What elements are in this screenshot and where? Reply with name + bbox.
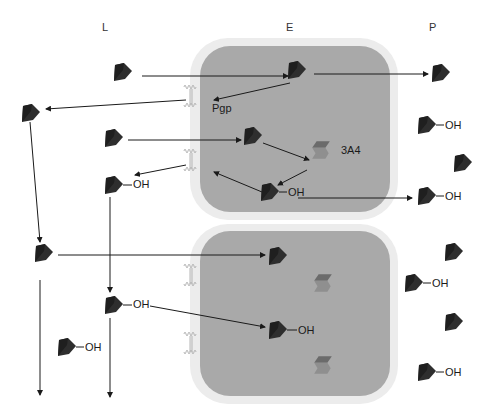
hydroxylated-drug-icon [105,176,123,194]
oh-bonds [76,125,444,372]
drug-molecule-icon [114,63,132,81]
hydroxylated-drug-icon [58,338,76,356]
diagram-canvas [0,0,495,420]
pgp-label: Pgp [212,102,232,114]
oh-label: OH [133,298,150,310]
hydroxylated-drug-icon [405,274,423,292]
hydroxylated-drug-icon [261,183,279,201]
cyp3a4-enzyme-icon [312,141,330,159]
membrane-protein-icon [184,332,196,354]
cyp3a4-enzyme-icon [314,274,332,292]
membrane-protein-icon [184,264,196,286]
oh-label: OH [445,366,462,378]
cyp3a4-enzyme-icon [314,356,332,374]
oh-label: OH [288,186,305,198]
hydroxylated-drug-icon [269,321,287,339]
oh-label: OH [445,190,462,202]
drug-molecule-icon [35,244,53,262]
hydroxylated-drug-icon [418,116,436,134]
oh-label: OH [298,324,315,336]
oh-label: OH [432,277,449,289]
drug-molecule-icon [432,64,450,82]
drug-molecule-icon [454,154,472,172]
drug-molecule-icon [445,313,463,331]
oh-label: OH [85,341,102,353]
hydroxylated-drug-icon [105,296,123,314]
pgp-transporter-icon [184,149,196,171]
drug-molecule-icon [269,247,287,265]
oh-label: OH [133,178,150,190]
pgp-transporter-icon [184,85,196,107]
drug-molecule-icon [445,243,463,261]
hydroxylated-drug-icon [418,363,436,381]
drug-molecule-icon [22,104,40,122]
enzyme-3a4-label: 3A4 [341,144,361,156]
drug-molecule-icon [288,61,306,79]
drug-molecule-icon [244,127,262,145]
hydroxylated-drug-icon [418,187,436,205]
drug-molecule-icon [105,129,123,147]
oh-label: OH [445,119,462,131]
